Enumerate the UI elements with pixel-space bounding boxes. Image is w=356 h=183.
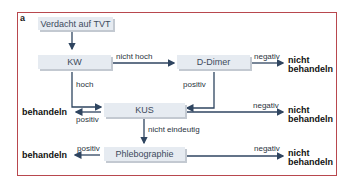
label-kus-positiv: positiv [76,115,99,124]
outcome-kus-nicht-behandeln: nicht behandeln [288,106,333,124]
label-ddimer-positiv: positiv [183,80,206,89]
label-kus-negativ: negativ [253,101,279,110]
outcome-kus-behandeln: behandeln [22,108,67,117]
outcome-phlebo-behandeln: behandeln [22,151,67,160]
outcome-ddimer-nicht-behandeln: nicht behandeln [288,56,333,74]
outcome-phlebo-nicht-behandeln: nicht behandeln [288,149,333,167]
node-d-dimer: D-Dimer [177,55,250,69]
label-phlebo-positiv: positiv [77,144,100,153]
node-verdacht-auf-tvt: Verdacht auf TVT [38,17,113,30]
node-kus: KUS [104,103,185,117]
label-nicht-eindeutig: nicht eindeutig [148,125,200,134]
label-phlebo-negativ: negativ [254,144,280,153]
node-kw: KW [38,55,111,69]
label-nicht-hoch: nicht hoch [116,52,152,61]
label-hoch: hoch [76,80,93,89]
label-ddimer-negativ: negativ [254,52,280,61]
node-phlebographie: Phlebographie [104,147,185,161]
